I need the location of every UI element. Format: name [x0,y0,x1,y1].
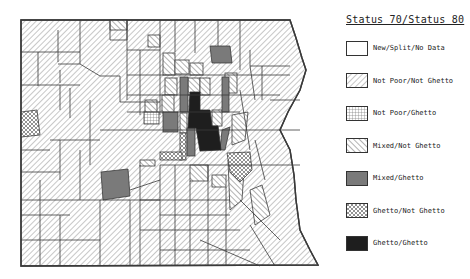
legend-item-not-poor-ghetto: Not Poor/Ghetto [340,97,470,130]
gray-swatch-icon [346,171,368,186]
legend-item-new-split-no-data: New/Split/No Data [340,32,470,65]
back-hatch-swatch-icon [346,73,368,88]
forward-hatch-swatch-icon [346,138,368,153]
legend-item-ghetto-ghetto: Ghetto/Ghetto [340,227,470,260]
legend-title: Status 70/Status 80 [346,14,470,25]
census-tract-map [0,0,320,279]
map-legend: Status 70/Status 80 New/Split/No Data No… [340,14,470,260]
not-poor-ghetto-tracts [144,112,159,124]
black-swatch-icon [346,236,368,251]
legend-item-not-poor-not-ghetto: Not Poor/Not Ghetto [340,65,470,98]
legend-item-ghetto-not-ghetto: Ghetto/Not Ghetto [340,195,470,228]
blank-swatch-icon [346,41,368,56]
grid-swatch-icon [346,106,368,121]
legend-item-mixed-not-ghetto: Mixed/Not Ghetto [340,130,470,163]
crosshatch-swatch-icon [346,203,368,218]
legend-item-mixed-ghetto: Mixed/Ghetto [340,162,470,195]
